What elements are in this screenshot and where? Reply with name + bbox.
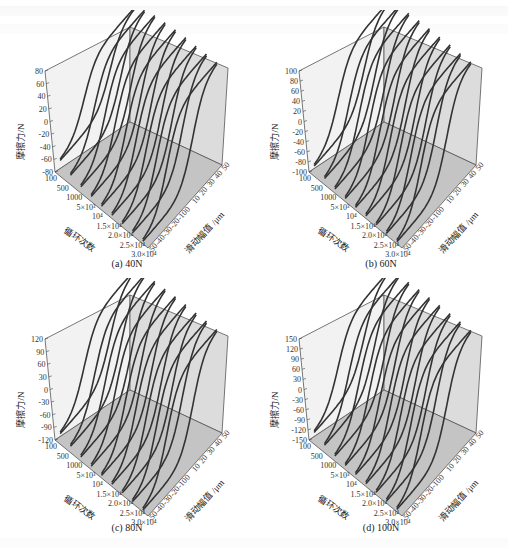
- z-tick-label: 120: [286, 345, 298, 354]
- z-tick-label: -60: [294, 148, 305, 157]
- cycle-tick-label: 1.5×10⁴: [350, 490, 376, 499]
- cycle-tick-label: 2.5×10⁴: [374, 509, 400, 518]
- cycle-tick-label: 1000: [320, 193, 336, 202]
- z-tick-label: 80: [35, 67, 43, 76]
- z-tick-label: 90: [291, 355, 299, 364]
- z-tick-label: -90: [41, 423, 52, 432]
- cycle-tick-label: 5×10³: [76, 203, 96, 212]
- z-tick-label: 60: [36, 80, 44, 89]
- background-bleed-text-bottom: [0, 538, 508, 548]
- z-tick-label: 80: [290, 77, 298, 86]
- z-tick-label: 90: [36, 348, 44, 357]
- cycle-tick-label: 10⁴: [92, 480, 103, 489]
- z-tick-label: -90: [294, 416, 305, 425]
- cycle-tick-label: 5×10³: [330, 203, 350, 212]
- amplitude-axis-label: 滑动幅值 /μm: [437, 209, 480, 255]
- z-tick-label: 40: [38, 92, 46, 101]
- z-tick-label: 0: [44, 386, 48, 395]
- z-tick-label: -40: [293, 138, 304, 147]
- z-axis-label: 摩擦力/N: [269, 123, 280, 160]
- cycle-tick-label: 500: [57, 184, 69, 193]
- cycle-tick-label: 2.5×10⁴: [374, 241, 400, 250]
- cycle-tick-label: 5×10³: [76, 471, 96, 480]
- cycle-tick-label: 2.0×10⁴: [362, 499, 388, 508]
- z-tick-label: -20: [39, 130, 50, 139]
- cycles-axis-label: 循环次数: [62, 224, 98, 254]
- z-tick-label: 0: [298, 386, 302, 395]
- z-tick-label: -120: [291, 426, 306, 435]
- z-tick-label: -60: [293, 406, 304, 415]
- z-tick-label: 60: [38, 360, 46, 369]
- cycle-tick-label: 5×10³: [330, 471, 350, 480]
- panel-a: 806040200-20-40-60-80摩擦力/N10050010005×10…: [0, 10, 254, 275]
- cycle-tick-label: 2.5×10⁴: [120, 509, 146, 518]
- cycle-tick-label: 1000: [66, 461, 82, 470]
- z-tick-label: 20: [293, 107, 301, 116]
- cycle-tick-label: 1000: [66, 193, 82, 202]
- chart-3d-c: 1209060300-30-60-90-120摩擦力/N10050010005×…: [0, 278, 254, 543]
- z-tick-label: -40: [40, 143, 51, 152]
- cycle-tick-label: 2.0×10⁴: [108, 231, 134, 240]
- z-tick-label: 0: [44, 118, 48, 127]
- z-tick-label: -60: [41, 155, 52, 164]
- amplitude-axis-label: 滑动幅值 /μm: [183, 477, 226, 523]
- cycle-tick-label: 100: [45, 442, 57, 451]
- cycles-axis-label: 循环次数: [316, 224, 352, 254]
- panel-c: 1209060300-30-60-90-120摩擦力/N10050010005×…: [0, 278, 254, 543]
- z-tick-label: 30: [39, 373, 47, 382]
- cycle-tick-label: 500: [57, 452, 69, 461]
- cycles-axis-label: 循环次数: [316, 492, 352, 522]
- panel-d: 1501209060300-30-60-90-120-150摩擦力/N10050…: [254, 278, 508, 543]
- cycle-tick-label: 1000: [320, 461, 336, 470]
- z-axis-label: 摩擦力/N: [15, 123, 26, 160]
- panel-caption: (b) 60N: [254, 258, 508, 269]
- z-tick-label: 100: [285, 67, 297, 76]
- panel-caption: (a) 40N: [0, 258, 254, 269]
- z-tick-label: -30: [292, 396, 303, 405]
- cycle-tick-label: 1.5×10⁴: [96, 490, 122, 499]
- cycle-tick-label: 2.0×10⁴: [362, 231, 388, 240]
- panel-b: 100806040200-20-40-60-80-100摩擦力/N1005001…: [254, 10, 508, 275]
- cycle-tick-label: 100: [45, 174, 57, 183]
- cycle-tick-label: 10⁴: [92, 212, 103, 221]
- z-tick-label: 0: [298, 118, 302, 127]
- cycle-tick-label: 2.5×10⁴: [120, 241, 146, 250]
- z-tick-label: -30: [39, 398, 50, 407]
- z-tick-label: 40: [292, 97, 300, 106]
- amplitude-axis-label: 滑动幅值 /μm: [437, 477, 480, 523]
- chart-3d-a: 806040200-20-40-60-80摩擦力/N10050010005×10…: [0, 10, 254, 275]
- cycle-tick-label: 10⁴: [346, 480, 357, 489]
- cycle-tick-label: 2.0×10⁴: [108, 499, 134, 508]
- chart-3d-b: 100806040200-20-40-60-80-100摩擦力/N1005001…: [254, 10, 508, 275]
- z-tick-label: -60: [40, 411, 51, 420]
- panel-caption: (c) 80N: [0, 522, 254, 533]
- z-tick-label: -80: [295, 158, 306, 167]
- cycle-tick-label: 100: [299, 442, 311, 451]
- cycle-tick-label: 500: [311, 184, 323, 193]
- z-tick-label: 120: [31, 335, 43, 344]
- amplitude-axis-label: 滑动幅值 /μm: [183, 209, 226, 255]
- z-tick-label: 30: [293, 375, 301, 384]
- cycle-tick-label: 1.5×10⁴: [96, 222, 122, 231]
- z-tick-label: 60: [292, 365, 300, 374]
- z-tick-label: -20: [292, 128, 303, 137]
- cycle-tick-label: 500: [311, 452, 323, 461]
- z-tick-label: 20: [39, 105, 47, 114]
- z-axis-label: 摩擦力/N: [15, 391, 26, 428]
- z-tick-label: 60: [291, 87, 299, 96]
- cycle-tick-label: 10⁴: [346, 212, 357, 221]
- panel-caption: (d) 100N: [254, 522, 508, 533]
- cycles-axis-label: 循环次数: [62, 492, 98, 522]
- cycle-tick-label: 1.5×10⁴: [350, 222, 376, 231]
- z-tick-label: 150: [285, 335, 297, 344]
- chart-3d-d: 1501209060300-30-60-90-120-150摩擦力/N10050…: [254, 278, 508, 543]
- cycle-tick-label: 100: [299, 174, 311, 183]
- z-axis-label: 摩擦力/N: [269, 391, 280, 428]
